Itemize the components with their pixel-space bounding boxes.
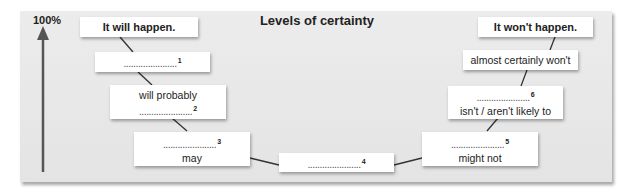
box-might-not: ......................5 might not [422,132,538,166]
blank-field-1[interactable]: ...................... [123,57,176,69]
box-it-wont-happen: It won't happen. [478,17,593,37]
blank-field-5[interactable]: ...................... [451,138,504,150]
arrow-up-icon [37,26,49,40]
label-almost-certainly-wont: almost certainly won't [470,53,570,67]
label-will-probably: will probably [110,88,226,102]
box-it-will-happen: It will happen. [80,17,198,37]
blank-field-2[interactable]: ...................... [139,105,192,117]
label-it-wont-happen: It won't happen. [494,20,577,34]
box-will-probably: will probably ......................2 [110,85,226,119]
box-not-likely: ......................6 isn't / aren't l… [448,86,563,119]
box-blank-1[interactable]: ......................1 [95,52,210,72]
blank-field-4[interactable]: ...................... [307,158,360,170]
label-it-will-happen: It will happen. [103,20,176,34]
number-2: 2 [193,105,197,112]
label-might-not: might not [422,151,538,165]
box-blank-4[interactable]: ......................4 [279,153,394,172]
label-may: may [134,151,250,165]
blank-field-6[interactable]: ...................... [476,91,529,103]
number-6: 6 [531,91,535,98]
box-may: ......................3 may [134,132,250,166]
number-4: 4 [362,158,366,165]
number-3: 3 [217,138,221,145]
blank-field-3[interactable]: ...................... [163,138,216,150]
number-5: 5 [505,138,509,145]
box-almost-certainly-wont: almost certainly won't [463,50,578,70]
number-1: 1 [178,57,182,64]
label-not-likely: isn't / aren't likely to [448,104,563,118]
